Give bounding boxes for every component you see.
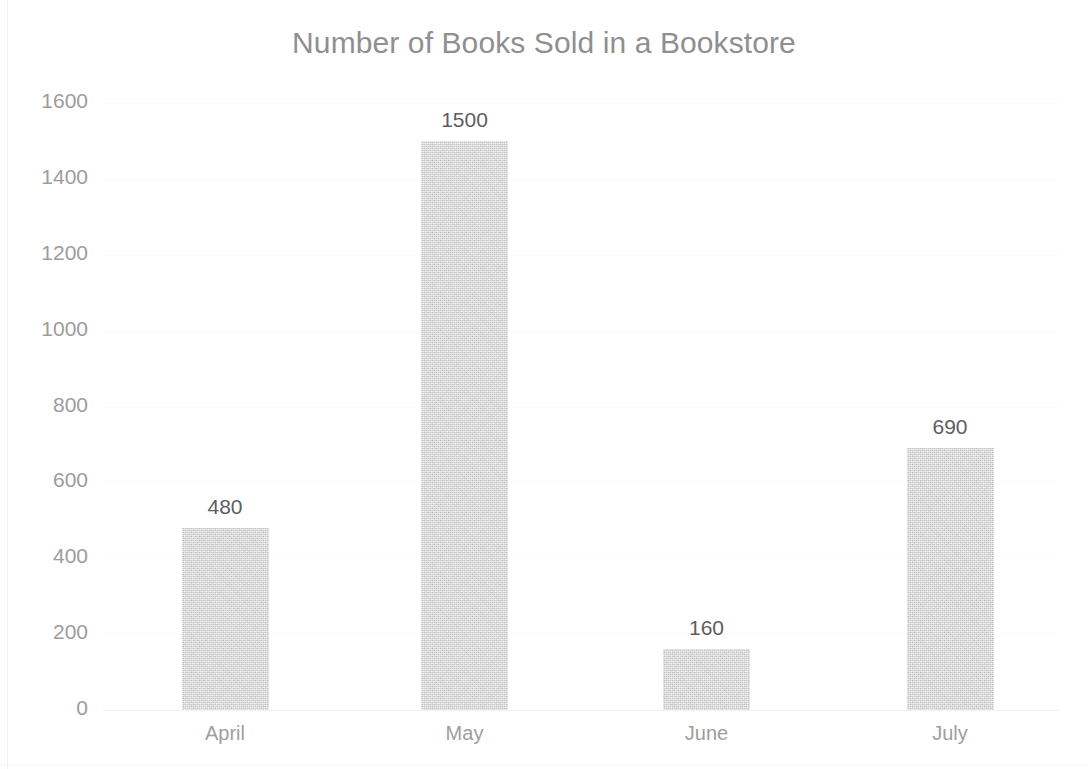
chart-title: Number of Books Sold in a Bookstore [0,26,1088,60]
bar[interactable] [182,528,269,710]
gridline [103,179,1060,180]
y-axis-tick-label: 800 [0,393,88,417]
x-axis-category-label: June [627,722,787,745]
y-axis-tick-label: 200 [0,620,88,644]
x-axis-category-label: July [870,722,1030,745]
y-axis-tick-label: 1000 [0,317,88,341]
gridline [103,255,1060,256]
y-axis-tick-label: 0 [0,696,88,720]
bar-chart: Number of Books Sold in a Bookstore 1600… [0,0,1088,769]
page-edge-left [7,0,8,769]
y-axis-tick-label: 1400 [0,165,88,189]
y-axis-tick-label: 1200 [0,241,88,265]
bar[interactable] [421,141,508,710]
bar-value-label: 160 [637,616,777,640]
bar[interactable] [663,649,750,710]
page-edge-bottom [0,764,1088,765]
bar-value-label: 690 [880,415,1020,439]
bar-value-label: 480 [155,495,295,519]
x-axis-category-label: May [385,722,545,745]
x-axis-category-label: April [145,722,305,745]
y-axis-tick-label: 400 [0,544,88,568]
bar-value-label: 1500 [395,108,535,132]
gridline [103,710,1060,711]
plot-area [103,103,1060,710]
gridline [103,407,1060,408]
y-axis-tick-label: 1600 [0,89,88,113]
bar[interactable] [907,448,994,710]
gridline [103,331,1060,332]
gridline [103,103,1060,104]
y-axis-tick-label: 600 [0,468,88,492]
